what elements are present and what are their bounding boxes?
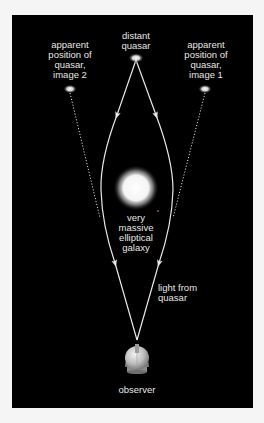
arrowhead-icon (155, 259, 162, 267)
arrowhead-icon (113, 111, 121, 119)
arrowhead-icon (111, 259, 118, 267)
elliptical-galaxy-icon (113, 165, 159, 211)
light-from-quasar-label: light from quasar (158, 283, 218, 303)
dotted-line-image1 (173, 93, 205, 218)
distant-quasar-icon (128, 53, 144, 63)
distant-quasar-label: distant quasar (110, 31, 162, 51)
observatory-dome-icon (125, 344, 149, 374)
arrowhead-icon (152, 111, 160, 119)
galaxy-label: very massive elliptical galaxy (106, 213, 166, 253)
dotted-line-image2 (70, 93, 100, 218)
quasar-image2-icon (63, 85, 77, 94)
image1-label: apparent position of quasar, image 1 (174, 40, 238, 80)
image2-label: apparent position of quasar, image 2 (38, 40, 102, 80)
quasar-image1-icon (198, 85, 212, 94)
faint-star-icon (157, 210, 159, 212)
observer-label: observer (106, 385, 168, 395)
